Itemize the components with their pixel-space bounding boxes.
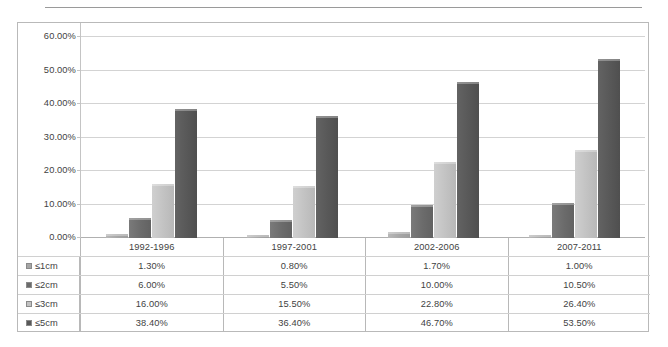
bar[interactable] <box>434 162 456 238</box>
bar[interactable] <box>575 150 597 238</box>
legend-entry[interactable]: ≤3cm <box>18 295 80 313</box>
bar[interactable] <box>129 218 151 238</box>
chart-object-frame: 0.00%10.00%20.00%30.00%40.00%50.00%60.00… <box>17 22 649 332</box>
column-header-2007-2011: 2007-2011 <box>508 238 651 256</box>
table-row: ≤3cm16.00%15.50%22.80%26.40% <box>18 294 650 313</box>
bar[interactable] <box>175 109 197 238</box>
bar[interactable] <box>316 116 338 238</box>
y-axis-tick-label: 60.00% <box>44 31 76 41</box>
table-cell: 36.40% <box>223 314 366 332</box>
plot-area <box>80 23 645 238</box>
y-axis-tick-label: 20.00% <box>44 165 76 175</box>
table-cell: 1.00% <box>508 257 651 275</box>
legend-swatch-icon <box>26 263 32 269</box>
y-axis: 0.00%10.00%20.00%30.00%40.00%50.00%60.00… <box>18 23 80 238</box>
legend-swatch-icon <box>26 320 32 326</box>
legend-label: ≤2cm <box>35 280 58 290</box>
table-cell: 10.50% <box>508 276 651 294</box>
bar[interactable] <box>598 59 620 238</box>
table-cell: 6.00% <box>80 276 223 294</box>
table-cell: 38.40% <box>80 314 223 332</box>
legend-entry[interactable]: ≤1cm <box>18 257 80 275</box>
table-cell: 10.00% <box>365 276 508 294</box>
table-header-row: 1992-19961997-20012002-20062007-2011 <box>18 238 650 256</box>
column-header-1992-1996: 1992-1996 <box>80 238 223 256</box>
bar-group <box>504 23 645 238</box>
table-cell: 16.00% <box>80 295 223 313</box>
column-header-1997-2001: 1997-2001 <box>223 238 366 256</box>
table-row: ≤1cm1.30%0.80%1.70%1.00% <box>18 256 650 275</box>
legend-label: ≤5cm <box>35 318 58 328</box>
bar-group <box>222 23 363 238</box>
y-axis-tick-label: 10.00% <box>44 199 76 209</box>
bar[interactable] <box>411 205 433 239</box>
legend-entry[interactable]: ≤5cm <box>18 314 80 332</box>
plot-wrapper: 0.00%10.00%20.00%30.00%40.00%50.00%60.00… <box>18 23 650 238</box>
table-cell: 1.30% <box>80 257 223 275</box>
bar[interactable] <box>457 82 479 238</box>
table-row: ≤5cm38.40%36.40%46.70%53.50% <box>18 313 650 332</box>
table-cell: 46.70% <box>365 314 508 332</box>
bar[interactable] <box>152 184 174 238</box>
y-axis-tick-label: 30.00% <box>44 132 76 142</box>
legend-swatch-icon <box>26 282 32 288</box>
column-header-2002-2006: 2002-2006 <box>365 238 508 256</box>
legend-entry[interactable]: ≤2cm <box>18 276 80 294</box>
bar[interactable] <box>270 220 292 238</box>
table-row: ≤2cm6.00%5.50%10.00%10.50% <box>18 275 650 294</box>
table-corner-cell <box>18 238 80 256</box>
legend-label: ≤1cm <box>35 261 58 271</box>
table-cell: 22.80% <box>365 295 508 313</box>
y-axis-tick-label: 40.00% <box>44 98 76 108</box>
table-cell: 53.50% <box>508 314 651 332</box>
table-cell: 0.80% <box>223 257 366 275</box>
bar-group <box>81 23 222 238</box>
bar[interactable] <box>293 186 315 238</box>
legend-label: ≤3cm <box>35 299 58 309</box>
table-cell: 26.40% <box>508 295 651 313</box>
bar[interactable] <box>552 203 574 238</box>
legend-swatch-icon <box>26 301 32 307</box>
table-cell: 1.70% <box>365 257 508 275</box>
table-cell: 15.50% <box>223 295 366 313</box>
y-axis-tick-label: 50.00% <box>44 65 76 75</box>
data-table: 1992-19961997-20012002-20062007-2011≤1cm… <box>18 238 650 332</box>
top-divider-rule <box>45 7 642 8</box>
bar-group <box>363 23 504 238</box>
table-cell: 5.50% <box>223 276 366 294</box>
